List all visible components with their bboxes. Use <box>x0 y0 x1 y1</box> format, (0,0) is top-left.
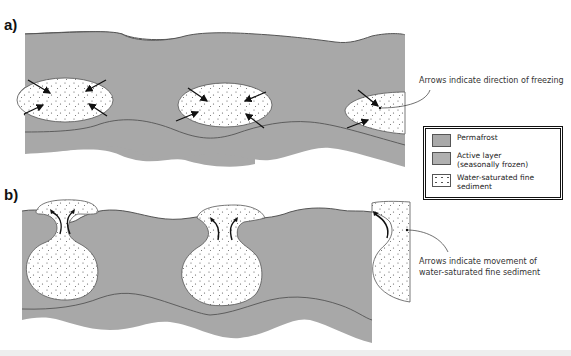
legend-item-active-layer: Active layer (seasonally frozen) <box>432 152 554 169</box>
freezing-direction-annotation: Arrows indicate direction of freezing <box>419 75 564 86</box>
panel-a-label: a) <box>4 16 17 33</box>
panel-b-label: b) <box>4 186 18 203</box>
sediment-movement-annotation: Arrows indicate movement of water-satura… <box>419 256 540 278</box>
bottom-strip <box>0 350 571 356</box>
permafrost-swatch <box>432 134 451 147</box>
panel-b-ground <box>22 200 448 343</box>
legend: Permafrost Active layer (seasonally froz… <box>423 126 563 200</box>
legend-sublabel-active-layer: (seasonally frozen) <box>457 161 528 170</box>
sediment-movement-annotation-line1: Arrows indicate movement of <box>419 256 540 267</box>
sediment-movement-annotation-line2: water-saturated fine sediment <box>419 267 540 278</box>
legend-sublabel-sediment: sediment <box>457 183 534 192</box>
legend-item-sediment: Water-saturated fine sediment <box>432 174 554 191</box>
legend-item-permafrost: Permafrost <box>432 134 554 147</box>
active-layer-swatch <box>432 152 451 165</box>
sediment-swatch <box>432 174 451 187</box>
legend-label-permafrost: Permafrost <box>457 134 498 143</box>
panel-a-ground-full <box>17 32 430 167</box>
